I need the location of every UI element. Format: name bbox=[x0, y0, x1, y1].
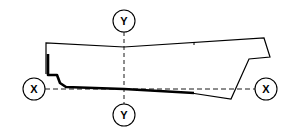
y-bottom-label: Y bbox=[120, 109, 128, 121]
y-top-label: Y bbox=[120, 15, 128, 27]
y-axis-top-marker: Y bbox=[113, 10, 135, 32]
x-axis-right-marker: X bbox=[255, 78, 277, 100]
x-left-label: X bbox=[30, 83, 38, 95]
x-right-label: X bbox=[262, 83, 270, 95]
inner-profile bbox=[48, 54, 194, 93]
x-axis-left-marker: X bbox=[23, 78, 45, 100]
y-axis-bottom-marker: Y bbox=[113, 104, 135, 126]
cross-section-diagram: Y Y X X bbox=[0, 0, 289, 133]
